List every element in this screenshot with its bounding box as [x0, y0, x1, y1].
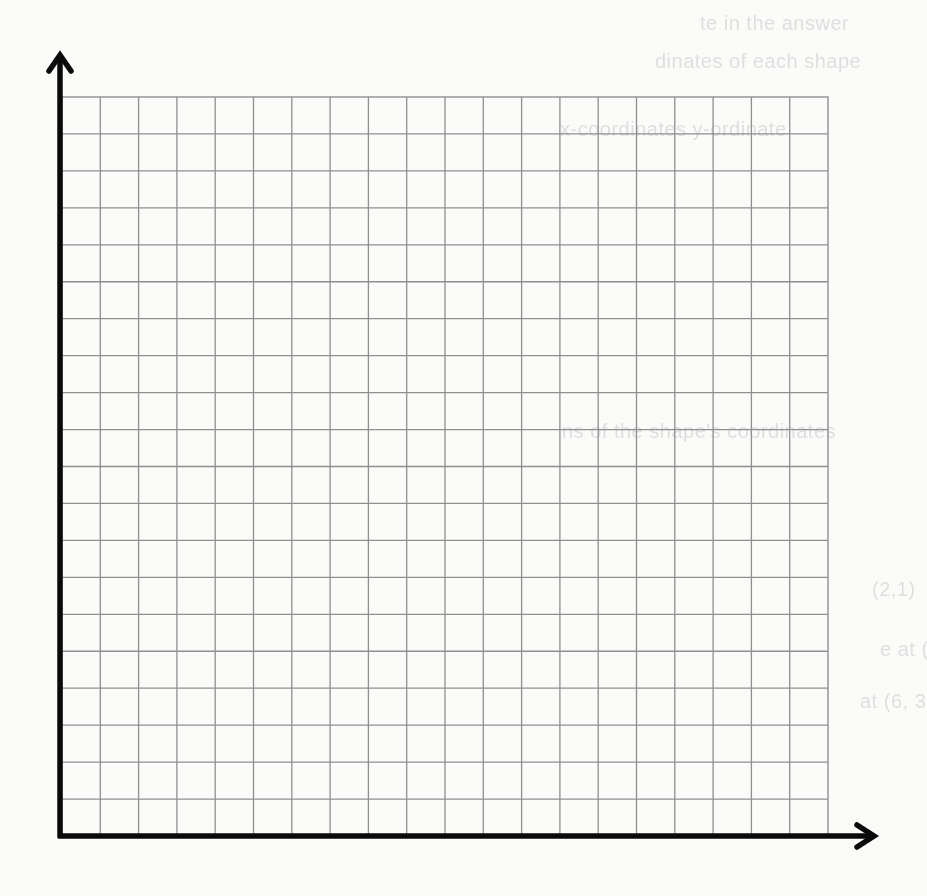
coordinate-grid-diagram — [0, 0, 927, 896]
y-axis — [49, 55, 71, 838]
worksheet-page: te in the answer dinates of each shape x… — [0, 0, 927, 896]
grid-lines — [62, 97, 828, 836]
